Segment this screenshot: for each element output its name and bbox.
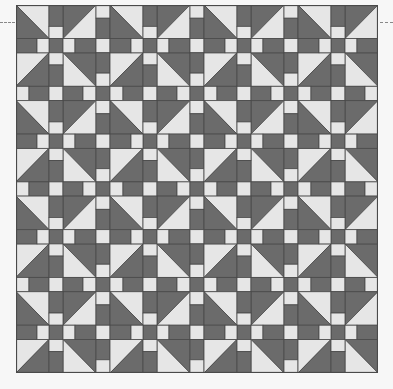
block-strip-piece (298, 230, 319, 244)
sash-piece (284, 134, 298, 148)
sash-piece (331, 182, 345, 196)
sash-piece (190, 114, 204, 134)
block-strip-piece (49, 134, 63, 148)
block-strip-piece (157, 325, 169, 339)
block-strip-piece (331, 244, 345, 256)
block-strip-piece (143, 339, 157, 351)
sash-piece (16, 182, 29, 196)
sash-piece (190, 101, 204, 114)
sash-piece (96, 230, 110, 244)
dashed-guide-right (380, 22, 393, 23)
block-strip-piece (237, 244, 251, 256)
sash-piece (190, 305, 204, 325)
block-strip-piece (225, 134, 237, 148)
sash-piece (237, 86, 251, 100)
sash-cornerstone (190, 277, 204, 291)
block-strip-piece (143, 161, 157, 182)
sash-piece (157, 277, 177, 291)
sash-piece (96, 244, 110, 264)
block-strip-piece (331, 256, 345, 277)
sash-piece (123, 86, 143, 100)
block-strip-piece (143, 230, 157, 244)
sash-piece (49, 86, 63, 100)
sash-piece (284, 244, 298, 264)
block-strip-piece (131, 325, 143, 339)
sash-piece (284, 360, 298, 373)
block-strip-piece (204, 39, 225, 53)
block-strip-piece (331, 26, 345, 38)
sash-piece (284, 148, 298, 168)
sash-piece (96, 73, 110, 86)
block-strip-piece (169, 325, 190, 339)
block-strip-piece (110, 134, 131, 148)
block-strip-piece (49, 196, 63, 217)
sash-piece (123, 182, 143, 196)
sash-piece (63, 86, 83, 100)
sash-piece (110, 182, 123, 196)
block-strip-piece (225, 325, 237, 339)
block-strip-piece (63, 39, 75, 53)
block-strip-piece (263, 230, 284, 244)
sash-piece (190, 360, 204, 373)
block-strip-piece (331, 65, 345, 86)
block-strip-piece (49, 26, 63, 38)
sash-piece (96, 134, 110, 148)
block-strip-piece (263, 39, 284, 53)
sash-piece (190, 39, 204, 53)
sash-piece (83, 182, 96, 196)
block-strip-piece (237, 101, 251, 122)
block-strip-piece (16, 39, 37, 53)
block-strip-piece (169, 134, 190, 148)
block-strip-piece (298, 325, 319, 339)
sash-cornerstone (190, 182, 204, 196)
block-strip-piece (298, 134, 319, 148)
block-strip-piece (143, 5, 157, 26)
sash-piece (365, 182, 378, 196)
sash-piece (16, 277, 29, 291)
block-strip-piece (110, 325, 131, 339)
block-strip-piece (37, 134, 49, 148)
block-strip-piece (331, 148, 345, 160)
block-strip-piece (237, 339, 251, 351)
sash-piece (29, 182, 49, 196)
block-strip-piece (237, 148, 251, 160)
block-strip-piece (225, 39, 237, 53)
block-strip-piece (237, 313, 251, 325)
sash-piece (217, 182, 237, 196)
block-strip-piece (357, 230, 378, 244)
sash-piece (177, 182, 190, 196)
block-strip-piece (37, 230, 49, 244)
sash-piece (83, 277, 96, 291)
sash-piece (284, 305, 298, 325)
block-strip-piece (237, 352, 251, 373)
block-strip-piece (49, 65, 63, 86)
sash-piece (110, 86, 123, 100)
sash-cornerstone (284, 277, 298, 291)
sash-piece (237, 182, 251, 196)
block-strip-piece (131, 230, 143, 244)
sash-piece (96, 339, 110, 359)
sash-piece (190, 196, 204, 209)
block-strip-piece (331, 313, 345, 325)
sash-piece (29, 277, 49, 291)
sash-piece (96, 360, 110, 373)
sash-piece (177, 86, 190, 100)
sash-piece (83, 86, 96, 100)
sash-cornerstone (96, 86, 110, 100)
block-strip-piece (157, 230, 169, 244)
block-strip-piece (319, 230, 331, 244)
block-strip-piece (331, 339, 345, 351)
sash-piece (284, 53, 298, 73)
block-strip-piece (237, 292, 251, 313)
sash-piece (345, 277, 365, 291)
sash-cornerstone (284, 182, 298, 196)
sash-piece (16, 86, 29, 100)
sash-piece (204, 277, 217, 291)
sash-piece (190, 148, 204, 168)
sash-piece (190, 209, 204, 229)
sash-piece (284, 196, 298, 209)
block-strip-piece (345, 230, 357, 244)
sash-piece (237, 277, 251, 291)
sash-piece (298, 182, 311, 196)
block-strip-piece (49, 53, 63, 65)
